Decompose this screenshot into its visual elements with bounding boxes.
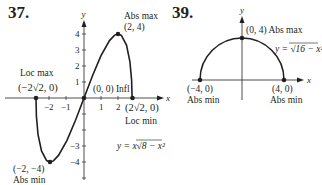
point-loc-min [130,96,135,101]
equation-39: y = √16 − x² [274,44,322,54]
label-abs-max-coord: (2, 4) [124,22,145,33]
y-tick-label: −4 [70,157,80,167]
y-tick-label: 4 [75,29,80,39]
charts-canvas: x y −2 −1 1 2 4 3 2 1 [0,0,322,185]
y-tick-label: 1 [75,77,80,87]
point-inflection [82,96,87,101]
label-right-coord: (4, 0) [272,84,293,95]
label-right-abs-min: Abs min [270,95,303,105]
y-axis-label-37: y [81,9,86,19]
point-abs-max [116,32,121,37]
point-abs-min-left [198,78,203,83]
label-loc-max: Loc max [20,68,54,78]
x-tick-label: −1 [61,102,71,112]
y-axis-arrow-icon [82,20,87,27]
y-axis-label-39: y [239,5,244,15]
label-abs-min-coord: (−2, −4) [13,164,44,175]
point-abs-max [240,36,245,41]
label-loc-min-coord: (2√2, 0) [125,102,159,114]
label-abs-max: Abs max [124,11,158,21]
x-axis-arrow-icon [157,96,164,101]
label-loc-min: Loc min [125,116,157,126]
label-inflection: (0, 0) Infl [93,84,130,95]
chart-39: x y (0, 4) Abs max y = √16 − x² (−4, 0) … [187,5,322,105]
y-tick-label: 2 [75,61,80,71]
point-abs-min-right [282,78,287,83]
x-axis-label-37: x [165,93,170,103]
point-abs-min [48,160,53,165]
label-loc-max-coord: (−2√2, 0) [18,82,58,94]
x-tick-label: 2 [116,102,121,112]
y-tick-label: 3 [75,45,80,55]
x-axis-label-39: x [306,75,311,85]
label-left-coord: (−4, 0) [187,84,213,95]
x-tick-label: 1 [99,102,104,112]
label-left-abs-min: Abs min [187,95,220,105]
label-abs-min: Abs min [13,175,46,185]
y-tick-label: −3 [70,141,80,151]
y-axis-arrow-icon [240,16,245,23]
chart-37: x y −2 −1 1 2 4 3 2 1 [5,9,170,185]
x-tick-label: −2 [44,102,54,112]
x-axis-arrow-icon [297,78,304,83]
point-loc-max [34,96,39,101]
label-top: (0, 4) Abs max [246,25,303,36]
equation-37: y = x√8 − x² [116,141,165,151]
